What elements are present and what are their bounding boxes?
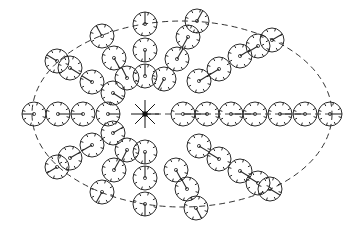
radial-layout-diagram — [0, 0, 360, 240]
arm-upper-right — [187, 28, 284, 93]
dial-circle-icon — [22, 102, 46, 126]
center-star-icon — [131, 100, 159, 128]
arm-upper-left-top — [90, 24, 139, 90]
dial-circle-icon — [207, 57, 231, 81]
arm-left — [22, 102, 120, 126]
dial-circle-icon — [228, 159, 252, 183]
dial-circle-icon — [228, 44, 252, 68]
dial-circle-icon — [80, 133, 104, 157]
dial-circle-icon — [133, 12, 157, 36]
arm-lower-left — [45, 121, 125, 179]
dial-circle-icon — [184, 196, 208, 220]
arm-lower-right — [187, 134, 282, 201]
dial-circle-icon — [293, 102, 317, 126]
dial-circle-icon — [80, 70, 104, 94]
dial-circle-icon — [243, 102, 267, 126]
dial-circle-icon — [207, 147, 231, 171]
dial-circle-icon — [115, 66, 139, 90]
arm-top — [133, 12, 157, 88]
dial-circle-icon — [246, 34, 270, 58]
dial-circle-icon — [219, 102, 243, 126]
arm-lower-right-bottom — [164, 158, 208, 220]
dial-circle-icon — [115, 138, 139, 162]
arm-lower-left-bottom — [90, 138, 139, 204]
dial-circle-icon — [90, 24, 114, 48]
arm-upper-left — [45, 49, 125, 105]
dial-circle-icon — [58, 56, 82, 80]
dial-circle-icon — [164, 158, 188, 182]
dial-circle-icon — [260, 28, 284, 52]
dial-circle-icon — [268, 102, 292, 126]
dial-circle-icon — [175, 177, 199, 201]
dial-circle-icon — [101, 81, 125, 105]
dial-circle-icon — [71, 102, 95, 126]
dial-circle-icon — [133, 166, 157, 190]
circle-arms — [22, 9, 342, 220]
dial-circle-icon — [133, 38, 157, 62]
dial-circle-icon — [90, 180, 114, 204]
dial-circle-icon — [58, 146, 82, 170]
dial-circle-icon — [318, 102, 342, 126]
dial-circle-icon — [45, 155, 69, 179]
dial-circle-icon — [45, 49, 69, 73]
dial-circle-icon — [46, 102, 70, 126]
dial-circle-icon — [133, 192, 157, 216]
arm-upper-right-top — [152, 9, 209, 91]
arm-bottom — [133, 140, 157, 216]
dial-circle-icon — [171, 102, 195, 126]
